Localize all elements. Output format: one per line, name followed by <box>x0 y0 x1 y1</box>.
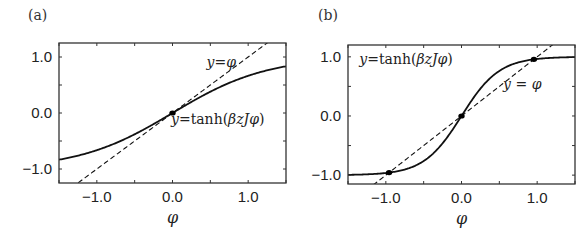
x-tick-label: 1.0 <box>238 188 259 205</box>
y-tick-label: −1.0 <box>311 166 341 183</box>
curve-annotation: y=φ <box>206 54 237 70</box>
figure: (a)−1.00.01.0−1.00.01.0φy=φy=tanh(βzJφ) … <box>0 0 587 237</box>
panel-label: (b) <box>318 7 338 23</box>
curve-annotation: y=tanh(βzJφ) <box>358 51 452 67</box>
fixed-point-marker <box>386 170 392 175</box>
fixed-point-marker <box>531 57 537 62</box>
x-tick-label: 0.0 <box>162 188 183 205</box>
x-tick-label: 0.0 <box>451 189 472 206</box>
x-tick-label: −1.0 <box>371 189 401 206</box>
y-tick-label: 1.0 <box>320 48 341 65</box>
y-tick-label: 0.0 <box>320 107 341 124</box>
x-axis-title: φ <box>456 209 468 228</box>
panel-label: (a) <box>28 7 47 23</box>
curve-annotation: y=tanh(βzJφ) <box>170 111 264 127</box>
x-tick-label: 1.0 <box>527 189 548 206</box>
x-axis-title: φ <box>167 208 179 227</box>
panel-b: (b)−1.00.01.0−1.00.01.0φy=tanh(βzJφ)y = … <box>311 7 575 228</box>
y-tick-label: −1.0 <box>22 160 52 177</box>
x-tick-label: −1.0 <box>82 188 112 205</box>
y-tick-label: 1.0 <box>31 48 52 65</box>
panel-a: (a)−1.00.01.0−1.00.01.0φy=φy=tanh(βzJφ) <box>22 7 286 227</box>
y-tick-label: 0.0 <box>31 104 52 121</box>
fixed-point-marker <box>458 113 464 118</box>
curve-annotation: y = φ <box>502 76 542 92</box>
